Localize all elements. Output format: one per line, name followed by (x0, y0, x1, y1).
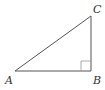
vertex-label-b: B (92, 74, 101, 87)
triangle-diagram: A B C (0, 0, 105, 90)
right-angle-marker (81, 61, 91, 71)
vertex-label-c: C (93, 3, 102, 16)
triangle-abc (15, 16, 91, 71)
vertex-label-a: A (4, 74, 13, 87)
